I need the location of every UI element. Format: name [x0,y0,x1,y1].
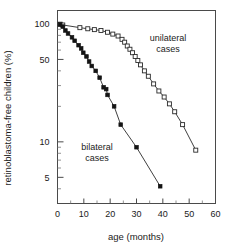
data-point-filled [66,32,70,36]
data-point-filled [61,25,65,29]
data-point-filled [82,51,86,55]
data-point-filled [135,145,139,149]
annotation-line: bilateral [81,142,113,152]
data-point-open [142,69,146,73]
data-point-filled [119,123,123,127]
data-point-open [152,82,156,86]
data-point-filled [90,64,94,68]
x-tick-label: 20 [105,209,115,219]
y-axis-label: retinoblastoma-free children (%) [2,50,13,185]
data-point-filled [73,39,77,43]
x-tick-label: 0 [55,209,60,219]
data-point-filled [158,184,162,188]
chart-figure: 0102030405060 10050105 unilateralcasesbi… [0,0,236,248]
data-point-open [116,34,120,38]
annotation-line: unilateral [150,33,187,43]
y-tick-label: 5 [44,173,49,183]
y-tick-label: 100 [34,19,49,29]
y-tick-label: 50 [39,55,49,65]
x-tick-label: 30 [131,209,141,219]
data-point-filled [79,47,83,51]
data-point-open [111,32,115,36]
data-point-open [106,30,110,34]
x-tick-label: 50 [184,209,194,219]
data-point-open [99,28,103,32]
annotation-bilateral: bilateralcases [81,142,113,163]
x-tick-label: 40 [158,209,168,219]
data-point-filled [94,69,98,73]
data-point-filled [106,93,110,97]
data-point-filled [70,36,74,40]
data-point-open [86,27,90,31]
data-point-open [194,148,198,152]
y-tick-label: 10 [39,137,49,147]
data-point-open [133,54,137,58]
data-point-filled [112,105,116,109]
data-point-open [181,123,185,127]
data-point-open [92,28,96,32]
data-point-open [157,89,161,93]
data-point-open [167,102,171,106]
data-point-open [173,110,177,114]
data-point-open [78,26,82,30]
x-tick-label: 10 [79,209,89,219]
x-tick-label: 60 [210,209,220,219]
data-point-open [146,74,150,78]
data-point-filled [98,76,102,80]
x-axis-label: age (months) [108,231,164,242]
data-point-filled [85,55,89,59]
data-point-filled [87,60,91,64]
data-point-filled [104,87,108,91]
data-point-open [162,95,166,99]
data-point-open [138,63,142,67]
annotation-line: cases [156,44,180,54]
annotation-line: cases [85,153,109,163]
data-point-open [136,58,140,62]
